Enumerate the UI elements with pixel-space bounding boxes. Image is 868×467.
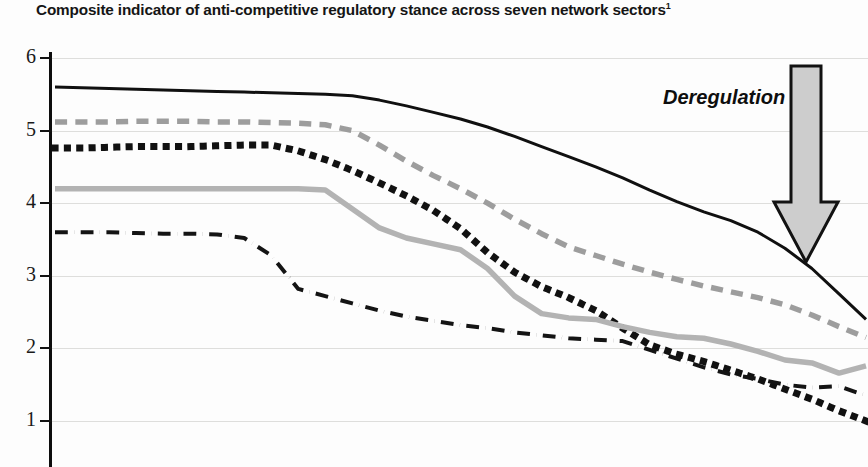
chart-title: Composite indicator of anti-competitive …	[36, 1, 866, 19]
series-dashdot-black	[55, 232, 866, 395]
y-tick-mark	[40, 57, 52, 59]
y-tick-mark	[40, 130, 52, 132]
y-tick-mark	[40, 347, 52, 349]
gridline	[52, 203, 868, 204]
y-tick-mark	[40, 202, 52, 204]
chart-container: Composite indicator of anti-competitive …	[0, 0, 868, 467]
gridline	[52, 276, 868, 277]
y-tick-label: 1	[6, 409, 36, 429]
y-tick-label: 2	[6, 336, 36, 356]
gridline	[52, 348, 868, 349]
gridline	[52, 58, 868, 59]
y-tick-mark	[40, 420, 52, 422]
arrow-down-icon	[770, 62, 842, 267]
series-dashed-grey	[55, 121, 866, 337]
y-tick-label: 5	[6, 119, 36, 139]
y-tick-label: 6	[6, 46, 36, 66]
deregulation-label: Deregulation	[663, 86, 785, 109]
y-tick-label: 3	[6, 264, 36, 284]
gridline	[52, 421, 868, 422]
gridline	[52, 131, 868, 132]
series-layer	[0, 0, 868, 467]
chart-title-text: Composite indicator of anti-competitive …	[36, 1, 666, 18]
chart-title-footnote-marker: 1	[666, 1, 671, 11]
y-tick-mark	[40, 275, 52, 277]
series-dotted-black	[55, 145, 866, 421]
y-axis-spine	[49, 52, 52, 467]
series-solid-grey	[55, 189, 866, 373]
y-tick-label: 4	[6, 191, 36, 211]
